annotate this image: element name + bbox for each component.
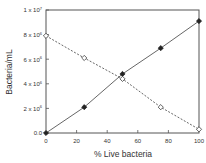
chart-svg: 1 x 107 8 x 106 6 x 106 4 x 106 2 x 106 …: [0, 0, 206, 163]
y-tick-label: 8 x 106: [23, 31, 42, 39]
y-tick-labels: 1 x 107 8 x 106 6 x 106 4 x 106 2 x 106 …: [23, 6, 42, 137]
y-tick-label: 4 x 106: [23, 80, 42, 88]
x-tick-labels: 0 20 40 60 80 100: [44, 138, 204, 144]
series-layer: [43, 18, 201, 135]
dashed-line: [46, 36, 199, 129]
x-axis-title: % Live bacteria: [94, 149, 152, 159]
x-tick-label: 0: [44, 138, 48, 144]
x-tick-label: 20: [73, 138, 80, 144]
y-axis-title: Bacteria/mL: [4, 49, 14, 95]
filled-diamond-marker: [43, 130, 48, 135]
open-diamond-marker: [158, 105, 163, 110]
x-tick-label: 100: [194, 138, 205, 144]
x-tick-label: 40: [104, 138, 111, 144]
y-tick-label: 2 x 106: [23, 104, 42, 112]
y-tick-label: 1 x 107: [23, 6, 42, 14]
y-tick-label: 6 x 106: [23, 55, 42, 63]
series-dead: [43, 33, 201, 132]
open-diamond-marker: [196, 127, 201, 132]
open-diamond-marker: [82, 55, 87, 60]
x-tick-label: 60: [134, 138, 141, 144]
open-diamond-marker: [43, 33, 48, 38]
y-tick-label: 0.0: [34, 130, 43, 136]
x-tick-label: 80: [165, 138, 172, 144]
